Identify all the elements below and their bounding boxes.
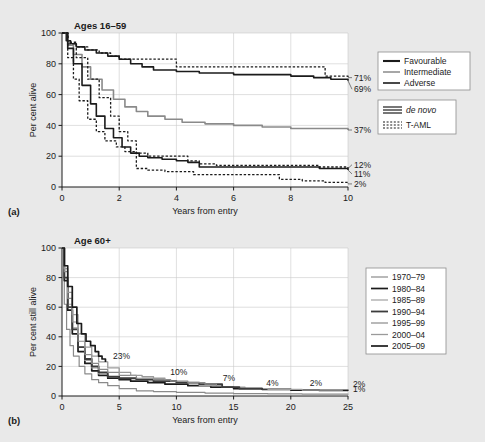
panel-a: 0204060801000246810Years from entryPer c… bbox=[0, 0, 485, 218]
endpoint-leader-line bbox=[348, 170, 352, 174]
endpoint-label: 2% bbox=[354, 179, 367, 189]
endpoint-label: 69% bbox=[354, 84, 371, 94]
legend-type-label: T-AML bbox=[406, 120, 431, 130]
legend-era-label: 1990–94 bbox=[392, 307, 425, 317]
legend-era-label: 2005–09 bbox=[392, 341, 425, 351]
panel-a-chart: 0204060801000246810Years from entryPer c… bbox=[0, 0, 485, 218]
legend-era-label: 1995–99 bbox=[392, 318, 425, 328]
series-annotation: 1% bbox=[353, 384, 366, 394]
legend-risk-label: Favourable bbox=[404, 56, 447, 66]
y-axis-label: Per cent alive bbox=[28, 83, 38, 138]
endpoint-leader-line bbox=[348, 165, 352, 169]
y-tick-label: 40 bbox=[46, 121, 56, 131]
legend-risk-label: Intermediate bbox=[404, 67, 452, 77]
panel-b: 0204060801000510152025Years from entryPe… bbox=[0, 218, 485, 442]
legend-era-label: 1980–84 bbox=[392, 284, 425, 294]
x-tick-label: 5 bbox=[117, 402, 122, 412]
x-tick-label: 15 bbox=[229, 402, 239, 412]
series-annotation: 7% bbox=[223, 373, 236, 383]
x-tick-label: 4 bbox=[174, 193, 179, 203]
y-axis-label: Per cent still alive bbox=[28, 287, 38, 357]
x-tick-label: 8 bbox=[288, 193, 293, 203]
x-tick-label: 0 bbox=[59, 402, 64, 412]
y-tick-label: 80 bbox=[46, 59, 56, 69]
legend-era-label: 1985–89 bbox=[392, 295, 425, 305]
endpoint-label: 37% bbox=[354, 125, 371, 135]
y-tick-label: 40 bbox=[46, 332, 56, 342]
x-tick-label: 20 bbox=[286, 402, 296, 412]
y-tick-label: 20 bbox=[46, 362, 56, 372]
series-annotation: 10% bbox=[170, 367, 187, 377]
x-tick-label: 10 bbox=[171, 402, 181, 412]
x-axis-label: Years from entry bbox=[172, 415, 238, 425]
panel-letter: (a) bbox=[8, 206, 20, 217]
legend-type-label: de novo bbox=[406, 105, 437, 115]
x-tick-label: 2 bbox=[117, 193, 122, 203]
legend-risk-label: Adverse bbox=[404, 78, 435, 88]
y-tick-label: 20 bbox=[46, 151, 56, 161]
x-tick-label: 0 bbox=[59, 193, 64, 203]
y-tick-label: 60 bbox=[46, 90, 56, 100]
series-annotation: 2% bbox=[310, 378, 323, 388]
series-annotation: 23% bbox=[113, 351, 130, 361]
y-tick-label: 0 bbox=[51, 182, 56, 192]
endpoint-leader-line bbox=[348, 81, 352, 89]
x-tick-label: 6 bbox=[231, 193, 236, 203]
panel-letter: (b) bbox=[8, 415, 20, 426]
x-axis-label: Years from entry bbox=[172, 206, 238, 216]
figure-container: 0204060801000246810Years from entryPer c… bbox=[0, 0, 485, 442]
panel-title: Ages 16–59 bbox=[74, 20, 126, 31]
endpoint-label: 11% bbox=[354, 169, 371, 179]
legend-era-label: 1970–79 bbox=[392, 272, 425, 282]
endpoint-label: 71% bbox=[354, 73, 371, 83]
y-tick-label: 0 bbox=[51, 391, 56, 401]
y-tick-label: 80 bbox=[46, 273, 56, 283]
y-tick-label: 100 bbox=[41, 28, 56, 38]
panel-title: Age 60+ bbox=[74, 235, 111, 246]
x-tick-label: 10 bbox=[343, 193, 353, 203]
y-tick-label: 60 bbox=[46, 302, 56, 312]
panel-b-chart: 0204060801000510152025Years from entryPe… bbox=[0, 218, 485, 442]
x-tick-label: 25 bbox=[343, 402, 353, 412]
series-annotation: 4% bbox=[266, 378, 279, 388]
legend-era-label: 2000–04 bbox=[392, 330, 425, 340]
y-tick-label: 100 bbox=[41, 243, 56, 253]
